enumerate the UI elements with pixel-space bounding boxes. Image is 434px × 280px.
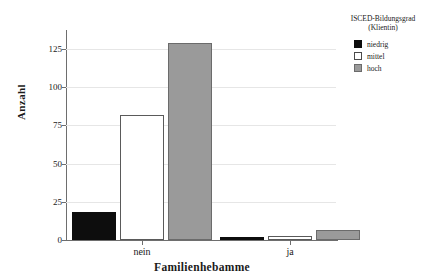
y-tick-label-0: 0 <box>32 236 62 245</box>
legend-swatch-niedrig-icon <box>354 40 362 48</box>
legend-label-niedrig: niedrig <box>367 40 388 49</box>
legend-title: ISCED-Bildungsgrad (Klientin) <box>336 14 430 32</box>
bar-ja-mittel <box>268 236 312 240</box>
y-tick-label-50: 50 <box>32 160 62 169</box>
y-tick-label-75: 75 <box>32 121 62 130</box>
y-tick-label-25: 25 <box>32 198 62 207</box>
legend: ISCED-Bildungsgrad (Klientin) niedrig mi… <box>336 14 434 74</box>
legend-item-mittel: mittel <box>354 50 434 62</box>
bar-chart-figure: Anzahl 125 100 75 50 25 0 nein ja Famili… <box>0 0 434 280</box>
y-tick-label-125: 125 <box>32 45 62 54</box>
bar-nein-mittel <box>120 115 164 240</box>
x-tick-label-nein: nein <box>107 246 177 257</box>
legend-item-hoch: hoch <box>354 62 434 74</box>
bar-ja-hoch <box>316 230 360 240</box>
legend-label-hoch: hoch <box>367 64 382 73</box>
legend-swatch-mittel-icon <box>354 52 362 60</box>
legend-items: niedrig mittel hoch <box>336 38 434 74</box>
x-tick-label-ja: ja <box>255 246 325 257</box>
x-axis-label: Familienhebamme <box>66 261 338 273</box>
plot-area <box>66 30 336 240</box>
x-tick-mark-nein <box>142 241 143 245</box>
legend-swatch-hoch-icon <box>354 64 362 72</box>
y-axis-label: Anzahl <box>15 72 27 132</box>
y-tick-label-100: 100 <box>32 83 62 92</box>
legend-label-mittel: mittel <box>367 52 385 61</box>
y-tick-mark-0 <box>62 240 66 241</box>
bar-nein-niedrig <box>72 212 116 240</box>
legend-item-niedrig: niedrig <box>354 38 434 50</box>
legend-title-line2: (Klientin) <box>336 23 430 32</box>
bar-nein-hoch <box>168 43 212 240</box>
bar-ja-niedrig <box>220 237 264 240</box>
x-axis-line <box>66 240 338 241</box>
legend-title-line1: ISCED-Bildungsgrad <box>336 14 430 23</box>
x-tick-mark-ja <box>290 241 291 245</box>
